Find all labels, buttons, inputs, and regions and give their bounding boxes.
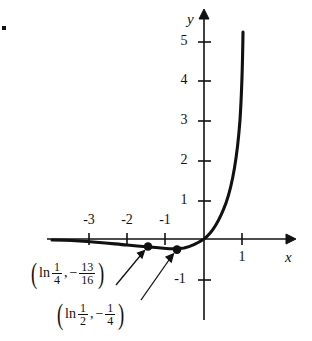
x-axis-arrowhead bbox=[286, 234, 296, 244]
minus-sign-2: − bbox=[95, 306, 103, 322]
leader-arrowhead-2 bbox=[166, 254, 173, 262]
graph-figure: y x -3 -2 -1 1 5 4 3 2 1 -1 ( ln 1 4 , −… bbox=[0, 0, 312, 341]
x-tick-label--3: -3 bbox=[78, 212, 100, 228]
graph-canvas bbox=[0, 0, 312, 341]
fraction-numerator: 1 bbox=[52, 261, 62, 273]
open-paren-2: ( bbox=[57, 299, 63, 329]
fraction-numerator: 1 bbox=[78, 302, 88, 314]
y-tick-label-3: 3 bbox=[175, 112, 193, 128]
fraction-numerator: 13 bbox=[79, 261, 95, 273]
leader-arrows bbox=[116, 251, 174, 301]
leader-line-2 bbox=[141, 260, 169, 300]
fraction-thirteen-sixteenths: 13 16 bbox=[79, 261, 95, 286]
point-label-1: ( ln 1 4 , − 13 16 ) bbox=[29, 258, 106, 288]
x-tick-label-1: 1 bbox=[232, 249, 252, 265]
y-tick-label--1: -1 bbox=[167, 271, 193, 287]
fraction-numerator: 1 bbox=[105, 302, 115, 314]
y-axis-label: y bbox=[187, 11, 194, 28]
y-axis-arrowhead bbox=[199, 9, 209, 19]
ln-text-2: ln bbox=[65, 306, 76, 322]
fraction-denominator: 4 bbox=[52, 273, 62, 286]
fraction-one-fourth: 1 4 bbox=[52, 261, 62, 286]
point-ln-quarter bbox=[144, 242, 153, 251]
open-paren-1: ( bbox=[31, 258, 37, 288]
leader-line-1 bbox=[116, 256, 140, 285]
comma-1: , bbox=[64, 265, 68, 281]
minus-sign-1: − bbox=[69, 265, 77, 281]
point-ln-half bbox=[173, 245, 182, 254]
ln-text-1: ln bbox=[39, 265, 50, 281]
fraction-denominator: 4 bbox=[105, 314, 115, 327]
fraction-denominator: 16 bbox=[79, 273, 95, 286]
x-axis-label: x bbox=[285, 249, 292, 266]
y-tick-label-5: 5 bbox=[175, 33, 193, 49]
close-paren-2: ) bbox=[118, 299, 124, 329]
x-tick-label--1: -1 bbox=[154, 212, 176, 228]
fraction-denominator: 2 bbox=[78, 314, 88, 327]
comma-2: , bbox=[90, 306, 94, 322]
x-tick-label--2: -2 bbox=[116, 212, 138, 228]
fraction-one-quarter-value: 1 4 bbox=[105, 302, 115, 327]
y-tick-label-1: 1 bbox=[175, 192, 193, 208]
close-paren-1: ) bbox=[98, 258, 104, 288]
point-label-2: ( ln 1 2 , − 1 4 ) bbox=[55, 299, 126, 329]
y-tick-label-2: 2 bbox=[175, 152, 193, 168]
y-tick-label-4: 4 bbox=[175, 72, 193, 88]
fraction-one-half: 1 2 bbox=[78, 302, 88, 327]
